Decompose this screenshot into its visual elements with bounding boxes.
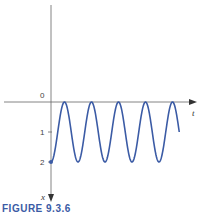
figure-caption: FIGURE 9.3.6 xyxy=(2,203,71,214)
x-axis-arrow xyxy=(48,194,54,202)
y-tick-label: 1 xyxy=(40,128,45,137)
y-tick-label: 0 xyxy=(40,91,45,100)
chart: t x 012 xyxy=(0,0,206,218)
series-line xyxy=(51,102,179,162)
t-axis-label: t xyxy=(192,108,195,118)
initial-point xyxy=(49,160,53,164)
y-tick-label: 2 xyxy=(40,158,45,167)
x-axis-label: x xyxy=(40,192,45,202)
t-axis-arrow xyxy=(189,99,197,105)
